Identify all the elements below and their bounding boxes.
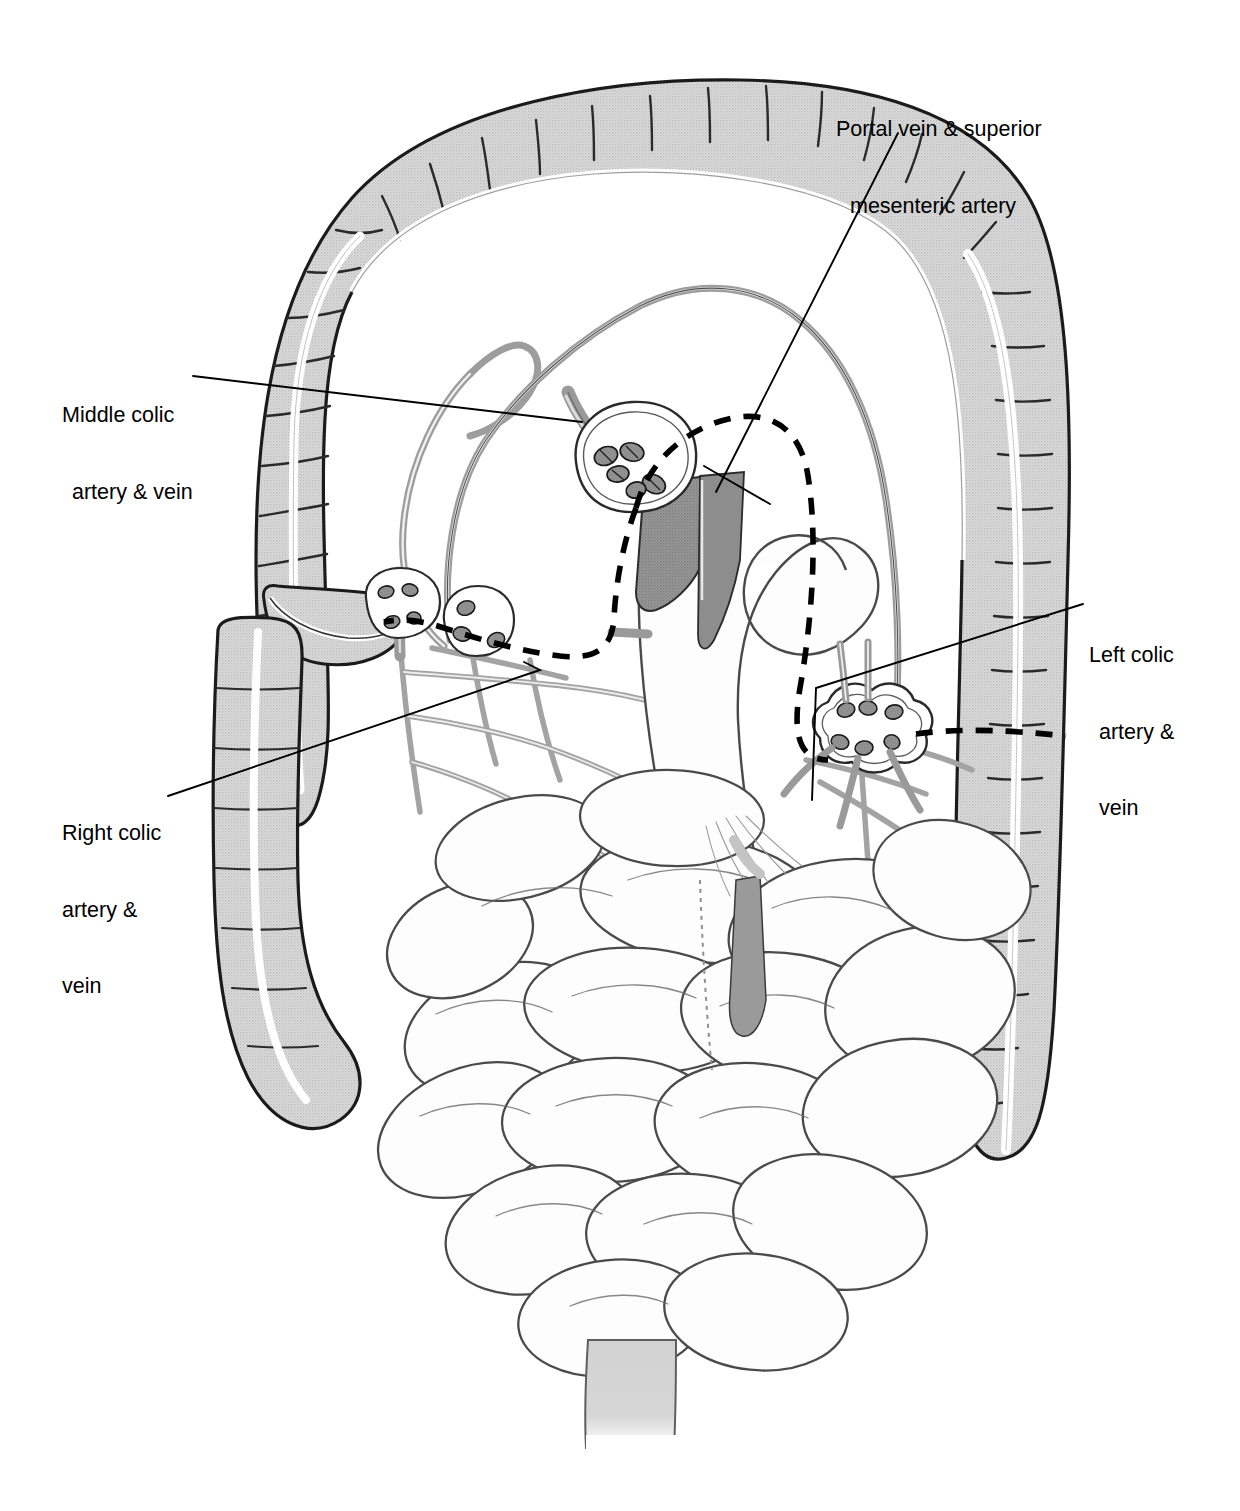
anatomy-diagram (0, 0, 1240, 1511)
label-line: vein (1089, 796, 1174, 822)
label-line: Portal vein & superior (836, 117, 1042, 143)
node-capsule-outer (366, 568, 440, 638)
label-line: vein (62, 974, 161, 1000)
middle-colic-nodes (576, 402, 697, 512)
sigmoid-left-segment (213, 617, 360, 1128)
label-line: Right colic (62, 821, 161, 847)
left-colic-nodes (784, 642, 932, 826)
rectum (585, 1340, 676, 1448)
smv-descending-segment (730, 876, 767, 1036)
ileocolic-nodes (366, 568, 440, 638)
portal-vein-sma-label: Portal vein & superior mesenteric artery (836, 66, 1042, 245)
label-line: mesenteric artery (836, 194, 1042, 220)
right-colic-label: Right colic artery & vein (62, 770, 161, 1025)
node-capsule-outer (813, 684, 932, 773)
label-line: Middle colic (62, 403, 193, 429)
small-bowel-loops (358, 535, 1045, 1385)
label-line: artery & vein (62, 480, 193, 506)
middle-colic-label: Middle colic artery & vein (62, 352, 193, 531)
label-line: artery & (62, 898, 161, 924)
left-colic-label: Left colic artery & vein (1089, 592, 1174, 847)
illustration-canvas: Portal vein & superior mesenteric artery… (0, 0, 1240, 1511)
label-line: Left colic (1089, 643, 1174, 669)
label-line: artery & (1089, 720, 1174, 746)
